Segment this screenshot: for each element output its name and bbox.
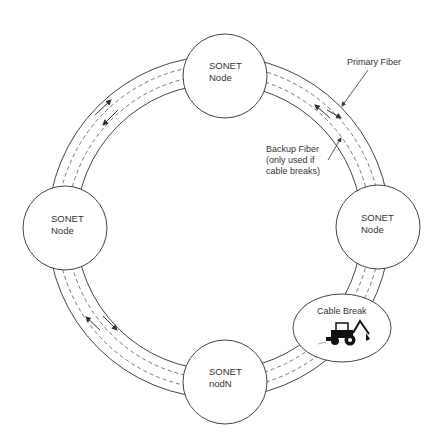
node-top-label: SONETNode xyxy=(209,60,242,83)
arrow-top-left-primary xyxy=(95,100,111,115)
primary-fiber-label: Primary Fiber xyxy=(347,57,401,68)
arrow-top-left-backup xyxy=(103,110,118,125)
node-right-label: SONETNode xyxy=(361,212,394,235)
cable-break-ellipse xyxy=(293,294,391,362)
cable-break-label: Cable Break xyxy=(317,306,367,317)
node-left-label: SONETNode xyxy=(51,213,84,236)
node-bottom-label: SONETnodN xyxy=(209,366,242,389)
primary-fiber-pointer xyxy=(342,70,368,106)
backup-fiber-label: Backup Fiber (only used if cable breaks) xyxy=(266,144,320,177)
